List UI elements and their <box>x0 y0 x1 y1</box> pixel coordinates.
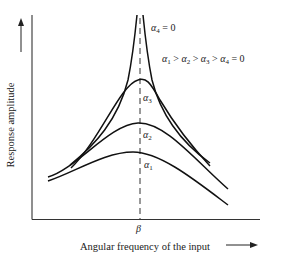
x-axis-arrow-head <box>250 242 258 248</box>
sub-1: 1 <box>167 58 171 66</box>
resonance-diagram: α4 = 0 α1 > α2 > α3 > α4 = 0 α3 α2 α1 β … <box>0 0 287 260</box>
x-axis-label: Angular frequency of the input <box>80 241 210 252</box>
label-alpha1: α1 <box>144 160 153 172</box>
gt-symbol: > <box>173 53 179 64</box>
curve-alpha4-left <box>70 15 137 165</box>
sub-2: 2 <box>148 134 152 142</box>
sub-3: 3 <box>206 58 210 66</box>
label-alpha3: α3 <box>143 93 152 105</box>
beta-tick-label: β <box>136 224 141 234</box>
sub-1: 1 <box>149 164 153 172</box>
sub-4: 4 <box>225 58 229 66</box>
gt-symbol: > <box>193 53 199 64</box>
label-alpha4-eq-0: α4 = 0 <box>151 23 175 35</box>
label-alpha2: α2 <box>143 130 152 142</box>
gt-symbol: > <box>212 53 218 64</box>
sub-3: 3 <box>148 97 152 105</box>
eq-zero: = 0 <box>162 22 175 33</box>
eq-zero: = 0 <box>231 53 244 64</box>
y-axis-arrow-head <box>18 18 24 26</box>
y-axis-label: Response amplitude <box>5 83 16 168</box>
sub-4: 4 <box>156 27 160 35</box>
label-ordering: α1 > α2 > α3 > α4 = 0 <box>162 54 245 66</box>
sub-2: 2 <box>187 58 191 66</box>
